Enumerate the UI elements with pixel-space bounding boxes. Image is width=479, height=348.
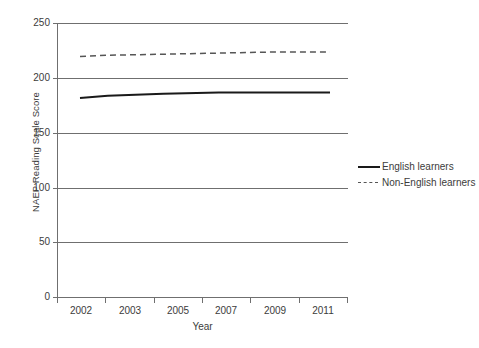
x-tick-label-2007: 2007 xyxy=(205,305,247,316)
x-axis-ticks xyxy=(58,298,348,303)
solid-line-swatch-icon xyxy=(358,162,380,172)
y-axis-title: NAEP Reading Scale Score xyxy=(29,7,43,297)
legend-item-non-english-learners: Non-English learners xyxy=(358,176,478,190)
legend-item-english-learners: English learners xyxy=(358,160,478,174)
x-tick-label-2005: 2005 xyxy=(157,305,199,316)
chart-figure: 250 200 150 100 50 0 NAEP Reading Scale … xyxy=(0,0,479,348)
x-axis-title: Year xyxy=(57,321,348,332)
dashed-line-swatch-icon xyxy=(358,178,380,188)
x-tick-label-2002: 2002 xyxy=(60,305,102,316)
x-tick-label-2011: 2011 xyxy=(302,305,344,316)
gridlines xyxy=(58,24,348,243)
x-tick-label-2003: 2003 xyxy=(109,305,151,316)
legend-label: English learners xyxy=(382,161,454,173)
chart-legend: English learners Non-English learners xyxy=(358,160,478,192)
series-line-english-learners xyxy=(80,93,330,98)
legend-label: Non-English learners xyxy=(382,177,475,189)
x-tick-label-2009: 2009 xyxy=(254,305,296,316)
y-axis-ticks xyxy=(53,24,58,298)
series-line-non-english-learners xyxy=(80,52,330,56)
